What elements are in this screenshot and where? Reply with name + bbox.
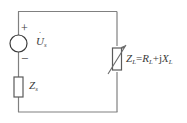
- voltage-source-icon: [10, 35, 27, 52]
- load-reactance-base: X: [162, 52, 169, 64]
- series-impedance-subscript: s: [35, 85, 38, 92]
- source-voltage-subscript: s: [44, 41, 47, 48]
- phasor-dot-icon: ˙: [38, 31, 41, 40]
- load-impedance-label: ZL=RL+jXL: [126, 53, 172, 65]
- polarity-plus-sign: +: [21, 22, 28, 34]
- series-impedance-icon: [14, 77, 23, 97]
- load-resistance-base: R: [142, 52, 149, 64]
- series-impedance-label: Zs: [29, 80, 38, 92]
- source-voltage-label: U ˙ s: [36, 36, 47, 48]
- polarity-minus-sign: −: [21, 52, 28, 65]
- source-voltage-symbol: U ˙: [36, 36, 44, 47]
- circuit-diagram: + − U ˙ s Zs ZL=RL+jXL: [0, 0, 187, 123]
- load-reactance-subscript: L: [169, 58, 173, 65]
